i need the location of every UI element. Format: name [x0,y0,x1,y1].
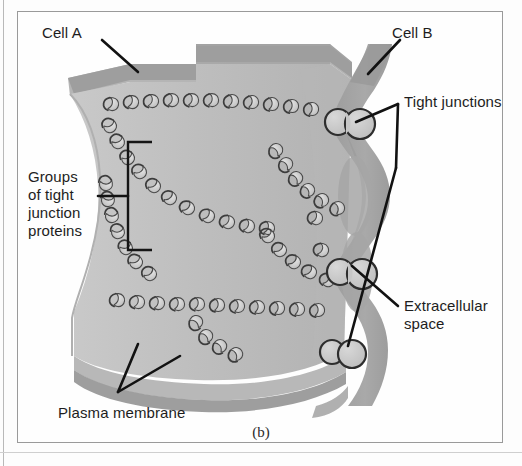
label-plasma-membrane: Plasma membrane [58,404,185,421]
label-cell-b: Cell B [392,24,433,41]
figure-page: Cell A Cell B Tight junctions Groups of … [0,0,522,466]
label-tight-junctions: Tight junctions [404,93,502,110]
tight-junction-3 [320,340,366,368]
figure-caption: (b) [0,424,522,441]
tight-junction-1 [325,109,375,139]
label-groups-of-tight-junction-proteins: Groups of tight junction proteins [28,168,82,240]
label-extracellular-space: Extracellular space [404,297,488,333]
leader-tight-junction-vertex [396,104,398,168]
label-cell-a: Cell A [42,24,82,41]
